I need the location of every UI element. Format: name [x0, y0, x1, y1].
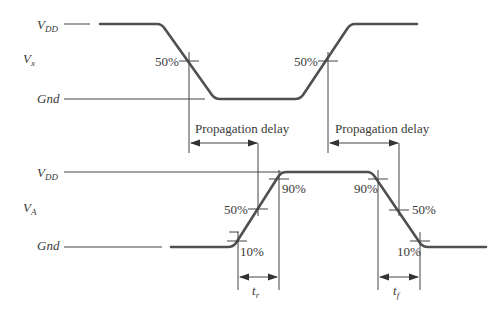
- va-rise-90-label: 90%: [282, 181, 306, 196]
- rise-time-label: tr: [252, 283, 260, 300]
- va-waveform: [171, 172, 486, 247]
- prop-delay-2-label: Propagation delay: [335, 121, 430, 136]
- prop-delay-1-label: Propagation delay: [195, 121, 290, 136]
- vx-rise-50-label: 50%: [294, 54, 318, 69]
- va-signal-label: VA: [23, 200, 37, 217]
- va-fall-90-label: 90%: [354, 181, 378, 196]
- vx-signal-label: Vx: [23, 51, 35, 68]
- vx-vdd-label: VDD: [37, 17, 58, 34]
- va-rise-10-label: 10%: [240, 244, 264, 259]
- output-waveform-group: VDD VA Gnd 10% 50% 90% 90% 50% 10% tr: [23, 143, 486, 300]
- vx-gnd-label: Gnd: [37, 91, 60, 106]
- va-fall-10-label: 10%: [397, 244, 421, 259]
- va-rise-50-label: 50%: [224, 202, 248, 217]
- fall-time-label: tf: [393, 283, 401, 300]
- vx-waveform: [100, 24, 417, 99]
- timing-diagram: VDD Vx Gnd 50% 50% Propagation delay Pro…: [0, 0, 503, 311]
- va-gnd-label: Gnd: [37, 238, 60, 253]
- vx-fall-50-label: 50%: [155, 54, 179, 69]
- va-fall-50-label: 50%: [412, 202, 436, 217]
- propagation-delay-group: Propagation delay Propagation delay: [191, 121, 430, 143]
- va-vdd-label: VDD: [37, 165, 58, 182]
